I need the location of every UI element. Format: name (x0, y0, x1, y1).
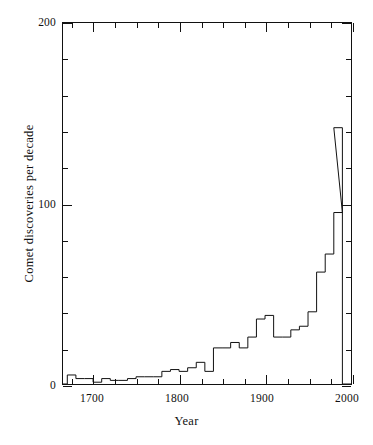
y-tick-200 (63, 23, 72, 24)
x-tick-1750 (137, 379, 138, 384)
x-tick-top-1975 (331, 23, 332, 28)
x-tick-1800 (180, 375, 181, 384)
x-tick-top-1950 (310, 23, 311, 28)
x-axis-title: Year (0, 414, 373, 429)
x-tick-top-1875 (245, 23, 246, 28)
y-tick-160 (63, 96, 68, 97)
y-tick-100 (63, 205, 72, 206)
y-tick-right-200 (342, 23, 351, 24)
x-tick-label-2000: 2000 (335, 392, 359, 404)
y-tick-right-120 (346, 168, 351, 169)
y-tick-right-140 (346, 132, 351, 133)
x-tick-top-1925 (288, 23, 289, 28)
x-tick-1675 (72, 379, 73, 384)
comet-discoveries-figure: 200 100 0 1700 1800 1900 2000 Year Comet… (0, 0, 373, 445)
y-tick-label-200: 200 (22, 16, 56, 28)
x-tick-label-1700: 1700 (80, 392, 104, 404)
y-tick-80 (63, 241, 68, 242)
y-tick-right-180 (346, 59, 351, 60)
x-tick-top-1900 (266, 23, 267, 32)
y-tick-140 (63, 132, 68, 133)
y-tick-120 (63, 168, 68, 169)
x-tick-1825 (202, 379, 203, 384)
x-tick-1975 (331, 379, 332, 384)
x-tick-1700 (93, 375, 94, 384)
x-tick-1725 (115, 379, 116, 384)
x-tick-top-1800 (180, 23, 181, 32)
x-tick-1850 (223, 379, 224, 384)
y-tick-label-0: 0 (22, 379, 56, 391)
step-histogram-line (63, 23, 351, 384)
x-tick-1875 (245, 379, 246, 384)
x-tick-top-1775 (158, 23, 159, 28)
x-tick-top-1850 (223, 23, 224, 28)
y-tick-right-0 (342, 386, 351, 387)
x-tick-top-1700 (93, 23, 94, 32)
x-tick-1775 (158, 379, 159, 384)
y-tick-right-60 (346, 277, 351, 278)
x-tick-1925 (288, 379, 289, 384)
y-tick-right-80 (346, 241, 351, 242)
x-tick-2000 (353, 375, 354, 384)
x-tick-label-1900: 1900 (250, 392, 274, 404)
y-tick-right-100 (342, 205, 351, 206)
x-tick-top-2000 (353, 23, 354, 32)
x-tick-label-1800: 1800 (165, 392, 189, 404)
x-tick-top-1825 (202, 23, 203, 28)
y-tick-40 (63, 313, 68, 314)
x-tick-1900 (266, 375, 267, 384)
y-axis-title: Comet discoveries per decade (22, 89, 37, 319)
y-tick-0 (63, 386, 72, 387)
y-tick-right-40 (346, 313, 351, 314)
x-tick-top-1750 (137, 23, 138, 28)
plot-area (62, 22, 352, 385)
y-tick-right-20 (346, 350, 351, 351)
x-tick-top-1725 (115, 23, 116, 28)
x-tick-1950 (310, 379, 311, 384)
y-tick-20 (63, 350, 68, 351)
y-tick-right-160 (346, 96, 351, 97)
y-tick-60 (63, 277, 68, 278)
y-tick-180 (63, 59, 68, 60)
